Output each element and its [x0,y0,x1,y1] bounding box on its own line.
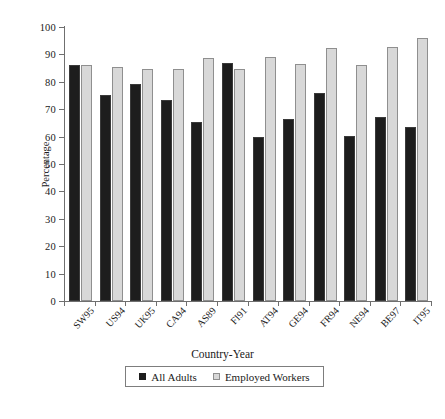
y-axis-tick-label: 70 [45,104,56,115]
x-axis-tick-label: CA94 [164,305,188,330]
x-axis-tick-label: BE97 [378,305,402,329]
legend-label-employed-workers: Employed Workers [225,371,310,383]
y-axis-tick [59,219,64,220]
x-axis-tick-label: SW95 [71,305,96,331]
y-axis-tick-label: 90 [45,49,56,60]
bar-us94-employed-workers [112,67,123,301]
y-axis-tick [59,191,64,192]
y-axis-tick [59,82,64,83]
bar-fr94-employed-workers [326,48,337,301]
bar-ne94-all-adults [344,136,355,301]
x-axis-tick-label: AT94 [257,305,280,329]
plot-area: 0102030405060708090100 [64,27,431,301]
bar-as89-all-adults [191,122,202,301]
bar-fr94-all-adults [314,93,325,301]
x-axis-tick-label: IT95 [411,305,432,327]
bar-at94-employed-workers [265,57,276,301]
y-axis-tick [59,246,64,247]
bar-sw95-employed-workers [81,65,92,301]
legend-swatch-dark-square-icon [139,373,146,380]
bar-group [253,27,277,301]
legend-item-employed-workers: Employed Workers [213,371,310,383]
y-axis-tick-label: 100 [40,22,56,33]
y-axis-tick-label: 10 [45,268,56,279]
y-axis-tick [59,27,64,28]
bar-be97-employed-workers [387,47,398,301]
bar-ne94-employed-workers [356,65,367,301]
bar-chart-figure: Percentage 0102030405060708090100 SW95US… [0,0,445,419]
y-axis-tick-label: 0 [51,296,56,307]
x-axis-tick-label: FI91 [228,305,249,326]
bar-as89-employed-workers [203,58,214,301]
legend-item-all-adults: All Adults [139,371,197,383]
x-axis-tick [431,301,432,306]
bar-fi91-employed-workers [234,69,245,301]
bar-ge94-all-adults [283,119,294,301]
bar-us94-all-adults [100,95,111,301]
bar-uk95-all-adults [130,84,141,301]
bar-group [130,27,154,301]
y-axis-tick-label: 80 [45,76,56,87]
bar-group [405,27,429,301]
x-axis-tick-label: FR94 [318,305,341,329]
bar-ge94-employed-workers [295,64,306,301]
bar-group [161,27,185,301]
bar-group [191,27,215,301]
bar-group [314,27,338,301]
bar-group [283,27,307,301]
x-axis-tick-labels: SW95US94UK95CA94AS89FI91AT94GE94FR94NE94… [64,303,431,351]
y-axis-tick [59,164,64,165]
bar-ca94-all-adults [161,100,172,301]
bar-group [69,27,93,301]
legend-label-all-adults: All Adults [151,371,197,383]
bar-be97-all-adults [375,117,386,301]
y-axis-tick [59,137,64,138]
y-axis-tick-label: 50 [45,159,56,170]
y-axis-tick-label: 20 [45,241,56,252]
x-axis-tick-label: US94 [103,305,127,329]
x-axis-tick-label: GE94 [286,305,310,330]
bar-fi91-all-adults [222,63,233,301]
bar-uk95-employed-workers [142,69,153,301]
legend-swatch-light-square-icon [213,373,220,380]
bar-group [100,27,124,301]
x-axis-tick-label: UK95 [132,305,157,330]
bar-it95-employed-workers [417,38,428,301]
bar-group [375,27,399,301]
y-axis-tick-label: 40 [45,186,56,197]
bar-ca94-employed-workers [173,69,184,301]
y-axis-tick [59,274,64,275]
bar-group [222,27,246,301]
y-axis-tick [59,109,64,110]
chart-legend: All Adults Employed Workers [125,366,324,387]
x-axis-title: Country-Year [0,348,445,360]
y-axis-tick [59,54,64,55]
x-axis-tick-label: AS89 [194,305,218,329]
y-axis-tick-label: 30 [45,213,56,224]
bar-at94-all-adults [253,137,264,301]
bar-group [344,27,368,301]
bar-sw95-all-adults [69,65,80,301]
y-axis-tick-label: 60 [45,131,56,142]
bar-it95-all-adults [405,127,416,301]
x-axis-tick-label: NE94 [347,305,371,330]
